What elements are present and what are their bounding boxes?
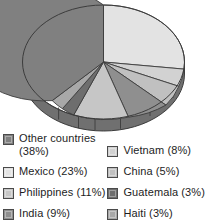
legend-item-vietnam: Vietnam (8%) (107, 144, 206, 162)
legend-swatch-haiti (107, 209, 118, 220)
legend-swatch-philippines (3, 188, 14, 199)
legend-swatch-india (3, 209, 14, 220)
legend-item-india: India (9%) (3, 207, 107, 221)
legend-column-left: Other countries (38%) Mexico (23%) Phili… (3, 132, 107, 221)
legend-label-mexico: Mexico (23%) (19, 165, 87, 178)
legend-label-india: India (9%) (19, 207, 70, 220)
pie-chart-graphic (0, 0, 206, 132)
legend-swatch-other-countries (3, 134, 14, 145)
legend-column-right: Vietnam (8%) China (5%) Guatemala (3%) H… (107, 132, 206, 221)
legend-item-haiti: Haiti (3%) (107, 207, 206, 221)
legend-item-mexico: Mexico (23%) (3, 165, 107, 183)
pie-slice-mexico (104, 5, 185, 69)
legend-swatch-guatemala (107, 188, 118, 199)
legend-label-other-countries: Other countries (38%) (19, 132, 96, 158)
legend-item-china: China (5%) (107, 165, 206, 183)
legend-label-haiti: Haiti (3%) (123, 207, 172, 220)
legend-label-philippines: Philippines (11%) (19, 186, 105, 199)
legend-swatch-china (107, 167, 118, 178)
legend-swatch-vietnam (107, 146, 118, 157)
legend-label-china: China (5%) (123, 165, 179, 178)
chart-legend: Other countries (38%) Mexico (23%) Phili… (0, 130, 206, 221)
legend-label-vietnam: Vietnam (8%) (123, 144, 191, 157)
legend-item-guatemala: Guatemala (3%) (107, 186, 206, 204)
legend-item-philippines: Philippines (11%) (3, 186, 107, 204)
legend-swatch-mexico (3, 167, 14, 178)
pie-chart-figure: Other countries (38%) Mexico (23%) Phili… (0, 0, 206, 221)
legend-item-other-countries: Other countries (38%) (3, 132, 107, 162)
legend-label-guatemala: Guatemala (3%) (123, 186, 205, 199)
pie-svg (0, 0, 206, 132)
pie-slices (0, 0, 185, 120)
